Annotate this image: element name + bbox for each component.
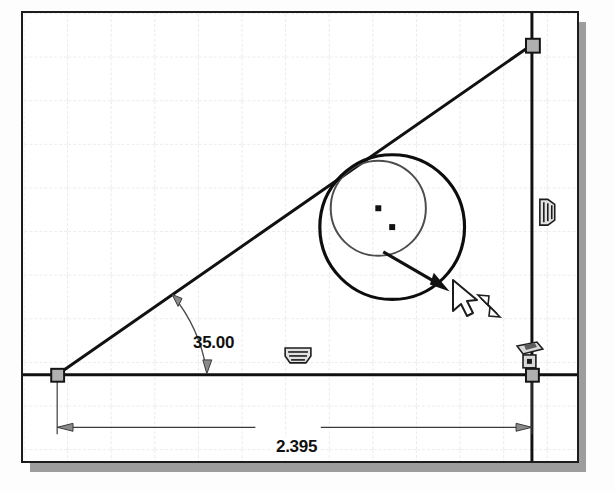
vertex-bottom-left[interactable]	[51, 369, 64, 382]
horizontal-constraint-icon[interactable]	[285, 348, 311, 363]
length-dimension-label[interactable]: 2.395	[273, 437, 320, 457]
length-dimension[interactable]	[57, 378, 532, 434]
vertical-constraint-icon[interactable]	[540, 199, 555, 225]
coincident-constraint-icon[interactable]	[517, 342, 543, 368]
sketch-canvas[interactable]: 35.00 2.395	[21, 11, 579, 463]
vertex-top-right[interactable]	[526, 39, 540, 53]
sketch-geometry-layer[interactable]	[23, 13, 577, 461]
drag-direction-arrow	[383, 252, 449, 292]
circle-center-original[interactable]	[375, 205, 381, 211]
circle-center-dragged[interactable]	[389, 224, 395, 230]
sketch-application: 35.00 2.395	[0, 0, 614, 491]
vertex-bottom-right[interactable]	[526, 369, 539, 382]
inclined-line[interactable]	[57, 45, 532, 375]
angle-dimension-label[interactable]: 35.00	[193, 333, 234, 353]
